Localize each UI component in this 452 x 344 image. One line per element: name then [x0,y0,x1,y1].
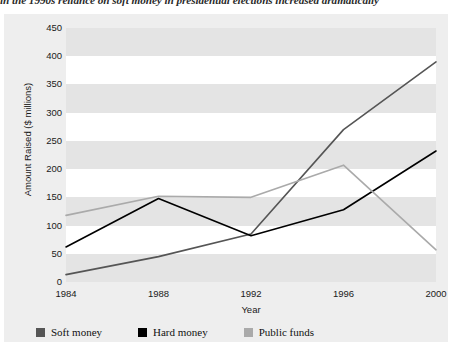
figure-panel: 050100150200250300350400450 Amount Raise… [4,14,448,342]
legend-item-label: Public funds [259,326,314,338]
x-axis-tick-label: 1984 [55,288,76,299]
legend-item: Soft money [36,326,102,338]
soft-money-swatch [36,328,45,337]
y-axis-tick-label: 300 [8,108,62,118]
legend-item: Hard money [138,326,208,338]
legend-item-label: Soft money [51,326,102,338]
x-axis-label: Year [66,304,436,315]
x-axis-tick-label: 2000 [425,288,446,299]
y-axis-tick-label: 450 [8,23,62,33]
figure-caption: in the 1990s reliance on soft money in p… [0,0,452,8]
y-axis-tick-group: 050100150200250300350400450 [4,14,62,342]
series-line-soft-money [66,62,436,275]
y-axis-tick-label: 250 [8,136,62,146]
y-axis-label: Amount Raised ($ millions) [22,70,33,210]
x-axis-tick-label: 1988 [148,288,169,299]
y-axis-tick-label: 200 [8,164,62,174]
y-axis-tick-label: 0 [8,277,62,287]
series-line-public-funds [66,165,436,250]
plot-area [66,28,436,282]
plot-series-svg [66,28,436,282]
y-axis-tick-label: 350 [8,79,62,89]
y-axis-tick-label: 400 [8,51,62,61]
y-axis-tick-label: 50 [8,249,62,259]
chart-legend: Soft moneyHard moneyPublic funds [36,326,314,338]
x-axis-tick-label: 1996 [333,288,354,299]
y-axis-tick-label: 150 [8,192,62,202]
y-axis-tick-label: 100 [8,221,62,231]
hard-money-swatch [138,328,147,337]
x-axis-tick-label: 1992 [240,288,261,299]
public-funds-swatch [244,328,253,337]
legend-item: Public funds [244,326,314,338]
legend-item-label: Hard money [153,326,208,338]
